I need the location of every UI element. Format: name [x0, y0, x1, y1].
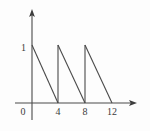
y-tick-label-1: 1: [21, 43, 26, 53]
x-tick-label-0: 0: [21, 107, 26, 117]
x-tick-label-8: 8: [83, 107, 88, 117]
x-tick-label-4: 4: [56, 107, 61, 117]
ramp-segment-2: [58, 45, 85, 103]
sawtooth-waveform-figure: 1 0 4 8 12: [0, 0, 150, 131]
ramp-segment-1: [32, 45, 58, 103]
ramp-segment-3: [85, 45, 112, 103]
x-tick-label-12: 12: [107, 107, 117, 117]
